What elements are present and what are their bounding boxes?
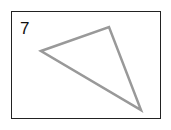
triangle-shape (0, 0, 171, 130)
